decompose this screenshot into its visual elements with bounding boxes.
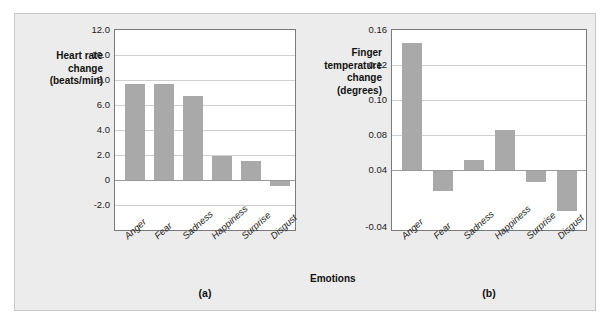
- plot-area-b: [391, 29, 587, 231]
- bar-series-b: [392, 30, 586, 230]
- caption-b: (b): [391, 287, 587, 299]
- y-tick-b-4: 0.04: [345, 165, 387, 175]
- bar-b-happiness: [495, 130, 515, 170]
- y-tick-a-5: 2.0: [70, 150, 110, 160]
- y-tick-a-7: -2.0: [70, 200, 110, 210]
- bar-a-anger: [125, 84, 145, 180]
- bar-b-disgust: [557, 171, 577, 211]
- y-tick-b-1: 0.12: [345, 60, 387, 70]
- y-tick-b-5: -0.04: [345, 222, 387, 232]
- y-tick-b-0: 0.16: [345, 25, 387, 35]
- figure-container: Heart rate change (beats/min) 12.0 10.0 …: [0, 0, 610, 327]
- y-axis-label-b: Finger temperature change (degrees): [306, 47, 382, 97]
- x-tick-labels-b: Anger Fear Sadness Happiness Surprise Di…: [391, 233, 587, 291]
- bar-a-sadness: [183, 96, 203, 180]
- bar-a-fear: [154, 84, 174, 180]
- x-tick-labels-a: Anger Fear Sadness Happiness Surprise Di…: [114, 233, 296, 291]
- bar-series-a: [115, 30, 295, 230]
- bar-a-happiness: [212, 156, 232, 180]
- chart-panel-a: Heart rate change (beats/min) 12.0 10.0 …: [15, 14, 306, 312]
- bar-b-fear: [433, 171, 453, 191]
- y-tick-b-3: 0.08: [345, 130, 387, 140]
- x-axis-label-emotions: Emotions: [310, 273, 356, 284]
- figure-panel: Heart rate change (beats/min) 12.0 10.0 …: [14, 13, 596, 311]
- plot-area-a: [114, 29, 296, 231]
- bar-a-surprise: [241, 161, 261, 180]
- y-tick-a-1: 10.0: [70, 50, 110, 60]
- y-tick-a-4: 4.0: [70, 125, 110, 135]
- chart-panel-b: Finger temperature change (degrees) Emot…: [306, 14, 597, 312]
- y-tick-a-6: 0: [70, 175, 110, 185]
- y-tick-a-0: 12.0: [70, 25, 110, 35]
- y-tick-b-2: 0.10: [345, 95, 387, 105]
- y-tick-a-2: 8.0: [70, 75, 110, 85]
- bar-b-anger: [402, 43, 422, 170]
- bar-b-sadness: [464, 160, 484, 170]
- caption-a: (a): [114, 287, 296, 299]
- y-tick-a-3: 6.0: [70, 100, 110, 110]
- bar-a-disgust: [270, 181, 290, 186]
- bar-b-surprise: [526, 171, 546, 182]
